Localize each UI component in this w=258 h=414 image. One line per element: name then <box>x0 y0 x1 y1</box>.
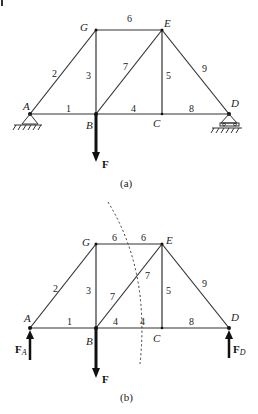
member-label-9: 9 <box>202 278 207 289</box>
joint-label-g: G <box>80 21 88 33</box>
joint-label-b: B <box>86 335 93 347</box>
joint-label-g: G <box>82 236 90 248</box>
joint-label-c: C <box>153 332 161 344</box>
arrowhead-icon <box>92 152 100 162</box>
member-label-4: 4 <box>131 103 136 114</box>
member-label-1: 1 <box>66 103 71 114</box>
caption-b: (b) <box>120 391 133 404</box>
caption-a: (a) <box>120 177 133 190</box>
member-9 <box>162 244 229 328</box>
reaction-label-d: FD <box>233 343 246 357</box>
joint-label-a: A <box>23 312 31 324</box>
member-label-3: 3 <box>86 70 91 81</box>
reaction-label-a: FA <box>15 343 27 357</box>
pin-support-icon <box>13 114 42 130</box>
joint-label-b: B <box>86 119 93 131</box>
member-label-7-left: 7 <box>110 291 115 302</box>
truss-diagram-b: FA FD F A B C D E G 1 2 3 4 4 5 6 6 7 7 … <box>15 202 246 404</box>
member-label-6: 6 <box>127 13 132 24</box>
member-label-3: 3 <box>86 285 91 296</box>
truss-diagram-a: F A B C D E G 1 2 3 4 5 6 7 8 9 (a) <box>13 13 242 190</box>
joint-label-e: E <box>165 234 173 246</box>
member-label-1: 1 <box>67 316 72 327</box>
arrowhead-icon <box>92 368 100 378</box>
roller-support-icon <box>211 114 242 133</box>
truss-figure: F A B C D E G 1 2 3 4 5 6 7 8 9 (a) FA <box>0 0 258 414</box>
member-7 <box>96 244 162 328</box>
member-label-2: 2 <box>52 68 57 79</box>
member-label-2: 2 <box>53 283 58 294</box>
member-label-5: 5 <box>166 70 171 81</box>
joint-label-d: D <box>230 97 239 109</box>
joint-label-d: D <box>230 311 239 323</box>
joint-label-e: E <box>163 17 171 29</box>
joint-label-a: A <box>22 100 30 112</box>
member-label-8: 8 <box>189 103 194 114</box>
member-label-9: 9 <box>202 63 207 74</box>
member-label-6-left: 6 <box>112 232 117 243</box>
joint-label-c: C <box>153 117 161 129</box>
load-label: F <box>102 158 109 170</box>
section-cut-line <box>108 202 142 364</box>
member-label-7: 7 <box>123 61 128 72</box>
crop-mark <box>1 0 3 6</box>
member-label-5: 5 <box>166 285 171 296</box>
member-9 <box>162 30 229 114</box>
member-label-4-right: 4 <box>140 316 145 327</box>
load-label: F <box>102 373 109 385</box>
member-label-7-right: 7 <box>145 270 150 281</box>
member-7 <box>96 30 162 114</box>
member-label-8: 8 <box>189 316 194 327</box>
member-label-6-right: 6 <box>141 232 146 243</box>
member-label-4-left: 4 <box>113 316 118 327</box>
